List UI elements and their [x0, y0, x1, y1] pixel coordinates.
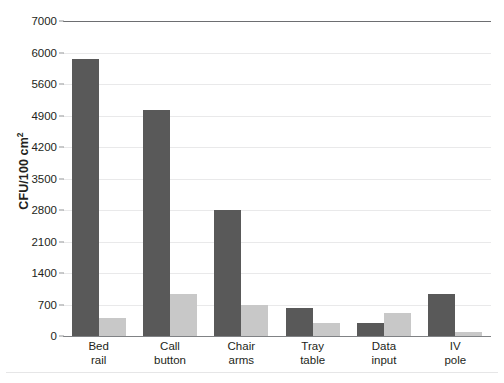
y-axis-tick-label: 700	[38, 299, 57, 311]
x-axis-label-line: pole	[420, 354, 490, 368]
bar	[313, 323, 340, 336]
x-axis-label: Datainput	[349, 340, 419, 367]
bar	[455, 332, 482, 336]
y-axis-title-base: CFU/100 cm	[17, 137, 31, 210]
figure-container: CFU/100 cm2 0700140021002800350042004900…	[0, 0, 504, 383]
x-axis-label-line: button	[135, 354, 205, 368]
x-axis-label: Bedrail	[64, 340, 134, 367]
y-axis-tick-label: 4200	[31, 141, 57, 153]
bar	[214, 210, 241, 336]
bar-group	[143, 21, 197, 336]
x-axis-label-line: Tray	[278, 340, 348, 354]
x-axis-label-line: Data	[349, 340, 419, 354]
y-axis-tick-label: 1400	[31, 267, 57, 279]
y-axis-tick-label: 2100	[31, 236, 57, 248]
x-axis-label-line: arms	[206, 354, 276, 368]
bar	[384, 313, 411, 336]
y-axis-tick-label: 2800	[31, 204, 57, 216]
y-axis-title-exponent: 2	[15, 132, 25, 137]
bar	[143, 110, 170, 336]
bar	[286, 308, 313, 336]
x-axis-label-line: input	[349, 354, 419, 368]
y-axis-tick-label: 7000	[31, 15, 57, 27]
x-axis-label-line: rail	[64, 354, 134, 368]
x-axis-label: IVpole	[420, 340, 490, 367]
bar-group	[428, 21, 482, 336]
x-axis-labels: BedrailCallbuttonChairarmsTraytableDatai…	[63, 340, 491, 367]
y-axis-tick-label: 4900	[31, 110, 57, 122]
plot-area: 0700140021002800350042004900560060007000	[63, 21, 491, 336]
x-axis-label: Callbutton	[135, 340, 205, 367]
bar	[72, 59, 99, 336]
x-axis-label: Chairarms	[206, 340, 276, 367]
y-axis-tick-label: 6000	[31, 47, 57, 59]
bar	[428, 294, 455, 336]
y-axis-tick-label: 5600	[31, 78, 57, 90]
caption-divider	[6, 372, 498, 373]
bar-group	[357, 21, 411, 336]
x-axis-label-line: table	[278, 354, 348, 368]
bar-group	[72, 21, 126, 336]
x-axis-label-line: IV	[420, 340, 490, 354]
bar-group	[214, 21, 268, 336]
y-axis-tick-label: 0	[51, 330, 57, 342]
bar	[170, 294, 197, 336]
x-axis-label: Traytable	[278, 340, 348, 367]
x-axis-label-line: Call	[135, 340, 205, 354]
bar	[99, 318, 126, 336]
y-axis-tick-label: 3500	[31, 173, 57, 185]
x-axis-label-line: Chair	[206, 340, 276, 354]
bar-group	[286, 21, 340, 336]
bar-groups	[63, 21, 491, 336]
gridline	[63, 336, 491, 337]
x-axis-label-line: Bed	[64, 340, 134, 354]
bar	[241, 305, 268, 336]
y-axis-title: CFU/100 cm2	[15, 101, 31, 241]
bar	[357, 323, 384, 337]
